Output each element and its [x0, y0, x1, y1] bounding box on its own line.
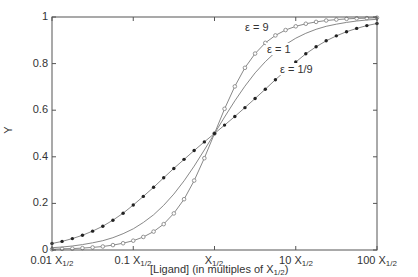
- annotation-epsilon-9: ε = 9: [244, 21, 270, 33]
- data-point: [355, 27, 358, 30]
- annotation-epsilon-1-9: ε = 1/9: [279, 63, 314, 75]
- data-point: [223, 123, 226, 126]
- data-point: [91, 229, 94, 232]
- data-point: [274, 34, 278, 38]
- data-point: [172, 167, 175, 170]
- data-point: [60, 240, 63, 243]
- data-point: [345, 17, 349, 21]
- data-point: [243, 66, 247, 70]
- y-tick-0.8: 0.8: [24, 57, 48, 69]
- data-point: [142, 235, 146, 239]
- y-axis-label: Y: [2, 126, 14, 133]
- data-point: [253, 97, 256, 100]
- data-point: [365, 24, 368, 27]
- data-point: [253, 52, 257, 56]
- data-point: [192, 149, 195, 152]
- data-point: [81, 246, 85, 250]
- data-point: [152, 230, 156, 234]
- data-point: [324, 19, 328, 23]
- data-point: [335, 18, 339, 22]
- data-point: [121, 211, 124, 214]
- data-point: [274, 78, 277, 81]
- data-point: [345, 30, 348, 33]
- data-point: [81, 234, 84, 237]
- data-point: [91, 246, 95, 250]
- data-point: [203, 156, 207, 160]
- data-point: [304, 22, 308, 26]
- plot-curves: [50, 16, 379, 251]
- data-point: [182, 197, 186, 201]
- data-point: [162, 222, 166, 226]
- data-point: [203, 140, 206, 143]
- data-point: [264, 88, 267, 91]
- data-point: [111, 218, 114, 221]
- x-axis-label: [Ligand] (in multiples of X1/2): [150, 263, 288, 277]
- data-point: [314, 45, 317, 48]
- data-point: [71, 237, 74, 240]
- data-point: [172, 212, 176, 216]
- data-point: [192, 179, 196, 183]
- data-point: [162, 176, 165, 179]
- data-point: [132, 203, 135, 206]
- data-point: [335, 34, 338, 37]
- data-point: [182, 158, 185, 161]
- data-point: [243, 106, 246, 109]
- data-point: [284, 28, 288, 32]
- data-point: [131, 239, 135, 243]
- data-point: [101, 225, 104, 228]
- y-tick-0.6: 0.6: [24, 103, 48, 115]
- y-tick-0.2: 0.2: [24, 196, 48, 208]
- x-tick-100: 100 X1/2: [342, 254, 412, 268]
- data-point: [294, 25, 298, 29]
- data-point: [223, 107, 227, 111]
- data-point: [101, 245, 105, 249]
- data-point: [304, 52, 307, 55]
- data-point: [111, 243, 115, 247]
- data-point: [121, 241, 125, 245]
- data-point: [152, 186, 155, 189]
- y-tick-1: 1: [24, 10, 48, 22]
- data-point: [324, 39, 327, 42]
- data-point: [233, 115, 236, 118]
- data-point: [213, 132, 216, 135]
- data-point: [233, 85, 237, 89]
- annotation-epsilon-1: ε = 1: [266, 43, 292, 55]
- x-tick-0.01: 0.01 X1/2: [17, 254, 87, 268]
- data-point: [314, 20, 318, 24]
- y-tick-0.4: 0.4: [24, 150, 48, 162]
- data-point: [142, 195, 145, 198]
